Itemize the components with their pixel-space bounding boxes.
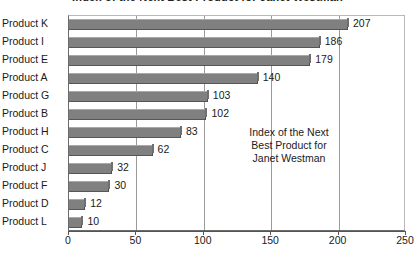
- bar-value-label: 186: [325, 35, 343, 47]
- annotation-line-3: Janet Westman: [228, 152, 350, 165]
- bar-value-label: 10: [87, 215, 99, 227]
- annotation-line-1: Index of the Next: [228, 126, 350, 139]
- bar-value-label: 102: [211, 107, 229, 119]
- x-tick-label: 50: [115, 234, 155, 246]
- bar-value-label: 83: [186, 125, 198, 137]
- bar-value-label: 103: [213, 89, 231, 101]
- bar-chart: Index of the Next Best Product for Janet…: [0, 0, 415, 253]
- x-tick-label: 250: [385, 234, 415, 246]
- bar: [69, 163, 112, 174]
- x-tick-label: 100: [183, 234, 223, 246]
- category-label: Product A: [2, 71, 66, 83]
- category-label: Product H: [2, 125, 66, 137]
- category-label: Product E: [2, 53, 66, 65]
- x-tick-label: 0: [48, 234, 88, 246]
- category-label: Product F: [2, 179, 66, 191]
- bar-row: [69, 106, 404, 124]
- category-label: Product I: [2, 35, 66, 47]
- chart-annotation: Index of the Next Best Product for Janet…: [228, 126, 350, 165]
- x-axis-line: [68, 231, 406, 232]
- bar-row: [69, 34, 404, 52]
- bar-value-label: 207: [353, 17, 371, 29]
- bar: [69, 19, 348, 30]
- bar: [69, 55, 310, 66]
- chart-title: Index of the Next Best Product for Janet…: [0, 0, 415, 4]
- x-tick-label: 200: [318, 234, 358, 246]
- bar-row: [69, 88, 404, 106]
- bar: [69, 73, 258, 84]
- bar-row: [69, 214, 404, 232]
- bar-row: [69, 52, 404, 70]
- bar: [69, 181, 109, 192]
- bar: [69, 199, 85, 210]
- bar-value-label: 32: [117, 161, 129, 173]
- x-tick-label: 150: [250, 234, 290, 246]
- category-label: Product J: [2, 161, 66, 173]
- bar-value-label: 62: [158, 143, 170, 155]
- category-label: Product B: [2, 107, 66, 119]
- category-label: Product L: [2, 215, 66, 227]
- bar: [69, 91, 208, 102]
- category-label: Product D: [2, 197, 66, 209]
- category-label: Product G: [2, 89, 66, 101]
- bar-value-label: 179: [315, 53, 333, 65]
- bar: [69, 37, 320, 48]
- bar-value-label: 30: [114, 179, 126, 191]
- annotation-line-2: Best Product for: [228, 139, 350, 152]
- category-label: Product C: [2, 143, 66, 155]
- bar-row: [69, 196, 404, 214]
- bar-value-label: 140: [263, 71, 281, 83]
- category-label: Product K: [2, 17, 66, 29]
- bar: [69, 217, 82, 228]
- bar: [69, 109, 206, 120]
- bar-value-label: 12: [90, 197, 102, 209]
- bar: [69, 127, 181, 138]
- bar: [69, 145, 153, 156]
- bar-row: [69, 70, 404, 88]
- plot-area: [68, 15, 405, 231]
